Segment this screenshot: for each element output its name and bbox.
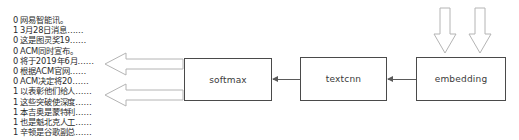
node-softmax-label: softmax	[209, 75, 247, 85]
sample-label: 1	[13, 117, 20, 127]
arrow-left-icon	[104, 51, 184, 77]
node-softmax[interactable]: softmax	[184, 58, 272, 101]
list-item: 1 辛顿是谷歌副总……	[13, 127, 105, 137]
sample-label: 0	[13, 76, 20, 86]
node-embedding-label: embedding	[435, 74, 488, 84]
node-textcnn[interactable]: textcnn	[300, 57, 387, 101]
sample-label: 1	[13, 86, 20, 96]
list-item: 1 以表彰他们给人……	[13, 86, 105, 96]
list-item: 0 将于2019年6月……	[13, 56, 105, 66]
arrow-down-icon	[467, 7, 493, 54]
sample-label: 0	[13, 46, 20, 56]
sample-text: ACM决定将20……	[20, 76, 89, 86]
sample-label: 0	[13, 35, 20, 45]
connector-textcnn-to-softmax	[273, 79, 300, 80]
sample-label: 1	[13, 107, 20, 117]
arrow-down-icon	[432, 7, 458, 54]
sample-text: 以表彰他们给人……	[20, 86, 92, 96]
node-textcnn-label: textcnn	[326, 74, 362, 84]
list-item: 0 这是图灵奖19……	[13, 35, 105, 45]
sample-text: 本吉奥是蒙特利……	[20, 107, 92, 117]
list-item: 0 ACM决定将20……	[13, 76, 105, 86]
list-item: 1 也是魁北克人工……	[13, 117, 105, 127]
diagram-canvas: 0 网易智能讯。 1 3月28日消息…… 0 这是图灵奖19…… 0 ACM同时…	[0, 0, 519, 140]
sample-text: 3月28日消息……	[20, 25, 84, 35]
arrow-left-icon	[104, 82, 184, 108]
connector-embedding-to-textcnn	[388, 79, 416, 80]
arrow-head-left-icon	[387, 76, 393, 82]
list-item: 1 3月28日消息……	[13, 25, 105, 35]
sample-text: 这是图灵奖19……	[20, 35, 86, 45]
sample-label: 1	[13, 127, 20, 137]
sample-text: 辛顿是谷歌副总……	[20, 127, 92, 137]
sample-text: 将于2019年6月……	[20, 56, 94, 66]
sample-text: 也是魁北克人工……	[20, 117, 92, 127]
list-item: 1 本吉奥是蒙特利……	[13, 107, 105, 117]
list-item: 0 ACM同时宣布。	[13, 46, 105, 56]
sample-label: 0	[13, 15, 20, 25]
list-item: 1 这些突破使深度……	[13, 97, 105, 107]
node-embedding[interactable]: embedding	[416, 57, 506, 101]
sample-list: 0 网易智能讯。 1 3月28日消息…… 0 这是图灵奖19…… 0 ACM同时…	[13, 15, 105, 137]
sample-text: 网易智能讯。	[20, 15, 67, 25]
sample-text: 根据ACM官网……	[20, 66, 86, 76]
sample-text: ACM同时宣布。	[20, 46, 78, 56]
sample-label: 1	[13, 25, 20, 35]
arrow-head-left-icon	[272, 76, 278, 82]
sample-label: 0	[13, 66, 20, 76]
sample-label: 1	[13, 97, 20, 107]
list-item: 0 网易智能讯。	[13, 15, 105, 25]
list-item: 0 根据ACM官网……	[13, 66, 105, 76]
sample-text: 这些突破使深度……	[20, 97, 92, 107]
sample-label: 0	[13, 56, 20, 66]
